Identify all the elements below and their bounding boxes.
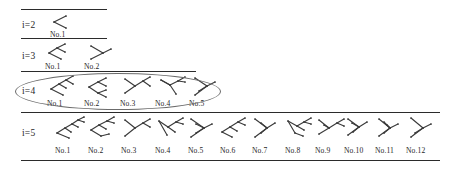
tree-caption-i4-5: No.5	[189, 99, 204, 108]
tree-i5-no6	[222, 116, 249, 141]
tree-i5-no12	[410, 116, 435, 141]
tree-i5-no8	[288, 116, 315, 140]
tree-i4-no1	[50, 75, 77, 99]
tree-caption-i3-2: No.2	[84, 62, 99, 71]
tree-caption-i5-7: No.7	[252, 146, 267, 155]
tree-caption-i5-10: No.10	[344, 146, 363, 155]
tree-caption-i5-5: No.5	[188, 146, 203, 155]
tree-caption-i4-2: No.2	[84, 99, 99, 108]
tree-caption-i5-1: No.1	[55, 146, 70, 155]
rule-bottom	[21, 160, 440, 161]
tree-caption-i5-11: No.11	[375, 146, 394, 155]
tree-caption-i4-4: No.4	[155, 99, 170, 108]
tree-i5-no4	[158, 116, 187, 139]
tree-i3-no2	[90, 42, 115, 63]
tree-caption-i4-3: No.3	[120, 99, 135, 108]
tree-i5-no2	[90, 116, 118, 140]
tree-i4-no5	[194, 75, 219, 99]
tree-caption-i5-12: No.12	[406, 146, 425, 155]
row-label-i2: i=2	[22, 20, 35, 30]
tree-i5-no5	[190, 116, 216, 141]
tree-i3-no1	[48, 42, 69, 63]
tree-caption-i2-1: No.1	[50, 30, 65, 39]
tree-i5-no9	[318, 116, 348, 138]
tree-i4-no4	[160, 75, 189, 98]
tree-caption-i3-1: No.1	[45, 62, 60, 71]
tree-caption-i5-4: No.4	[155, 146, 170, 155]
tree-i4-no2	[88, 75, 110, 101]
tree-i5-no10	[347, 116, 371, 139]
row-label-i4: i=4	[22, 86, 35, 96]
tree-enumeration-figure: i=2No.1i=3No.1No.2i=4No.1No.2No.3No.4No.…	[0, 0, 458, 173]
tree-i5-no3	[124, 116, 154, 140]
rule-top	[21, 9, 107, 10]
tree-caption-i4-1: No.1	[47, 99, 62, 108]
tree-caption-i5-6: No.6	[220, 146, 235, 155]
tree-caption-i5-9: No.9	[315, 146, 330, 155]
rule-below-i3	[21, 71, 196, 72]
tree-i4-no3	[124, 75, 154, 97]
tree-caption-i5-8: No.8	[285, 146, 300, 155]
tree-i5-no11	[378, 116, 402, 140]
tree-i5-no1	[57, 116, 88, 142]
row-label-i5: i=5	[22, 128, 35, 138]
tree-i5-no7	[254, 116, 279, 141]
rule-below-i4	[21, 112, 440, 113]
tree-caption-i5-2: No.2	[88, 146, 103, 155]
row-label-i3: i=3	[22, 51, 35, 61]
tree-caption-i5-3: No.3	[121, 146, 136, 155]
